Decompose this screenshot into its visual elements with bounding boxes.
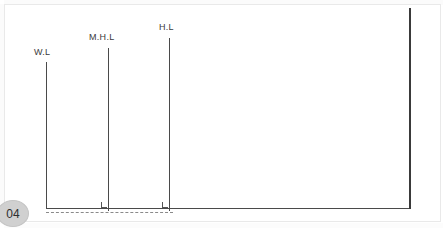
page-number-text: 04: [6, 207, 19, 221]
line-drawing-canvas: W.LM.H.LH.L: [0, 0, 447, 228]
hl-level-label: H.L: [159, 22, 174, 32]
high-level-line: [169, 38, 170, 211]
mhl-level-label: M.H.L: [89, 32, 115, 42]
mhl-corner-mark-icon: [101, 202, 107, 208]
hl-corner-mark-icon: [162, 202, 168, 208]
ground-baseline: [46, 208, 411, 209]
document-page: W.LM.H.LH.L 04: [0, 0, 447, 228]
water-level-line: [46, 62, 47, 209]
dashed-bed-line: [46, 212, 173, 213]
right-boundary-line: [409, 8, 411, 209]
wl-level-label: W.L: [34, 47, 50, 57]
mean-high-level-line: [108, 48, 109, 211]
